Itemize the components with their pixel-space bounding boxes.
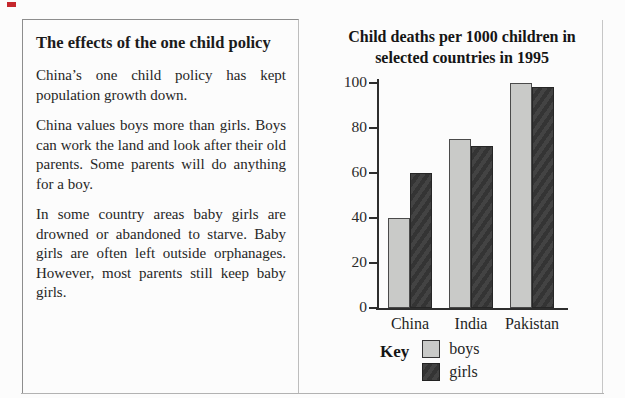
legend-entries: boys girls bbox=[422, 340, 479, 381]
y-tick bbox=[369, 307, 378, 309]
y-tick bbox=[369, 262, 378, 264]
bar-girls-pakistan bbox=[532, 87, 554, 308]
legend-swatch-girls bbox=[422, 363, 440, 381]
legend-swatch-boys bbox=[422, 340, 440, 358]
page: The effects of the one child policy Chin… bbox=[0, 0, 625, 398]
y-tick bbox=[369, 82, 378, 84]
y-tick-label: 0 bbox=[330, 298, 367, 316]
chart-legend: Key boys girls bbox=[380, 340, 480, 381]
y-tick bbox=[369, 127, 378, 129]
chart-title-line-2: selected countries in 1995 bbox=[312, 47, 612, 68]
y-tick-label: 20 bbox=[330, 253, 367, 271]
bar-girls-india bbox=[471, 146, 493, 308]
y-tick-label: 60 bbox=[330, 163, 367, 181]
article-paragraph-3: In some country areas baby girls are dro… bbox=[36, 205, 286, 303]
legend-label-girls: girls bbox=[449, 363, 477, 381]
article-paragraph-2: China values boys more than girls. Boys … bbox=[36, 116, 286, 194]
article-box: The effects of the one child policy Chin… bbox=[22, 19, 299, 393]
bar-boys-india bbox=[449, 139, 471, 308]
page-edge-bottom bbox=[21, 393, 604, 394]
plot-area: 020406080100ChinaIndiaPakistan bbox=[330, 73, 602, 348]
legend-entry-girls: girls bbox=[422, 363, 479, 381]
article-paragraph-1: China’s one child policy has kept popula… bbox=[36, 66, 286, 105]
red-corner-mark bbox=[7, 2, 16, 7]
x-axis-line bbox=[376, 308, 568, 310]
y-axis-line bbox=[377, 79, 379, 310]
y-tick-label: 80 bbox=[330, 118, 367, 136]
y-tick-label: 40 bbox=[330, 208, 367, 226]
bar-boys-china bbox=[388, 218, 410, 308]
page-edge-right bbox=[602, 20, 603, 393]
chart-title: Child deaths per 1000 children in select… bbox=[312, 26, 612, 68]
legend-entry-boys: boys bbox=[422, 340, 479, 358]
y-tick-label: 100 bbox=[330, 73, 367, 91]
y-tick bbox=[369, 172, 378, 174]
article-title: The effects of the one child policy bbox=[36, 32, 286, 54]
x-axis-label: Pakistan bbox=[490, 315, 574, 333]
chart-title-line-1: Child deaths per 1000 children in bbox=[312, 26, 612, 47]
bar-girls-china bbox=[410, 173, 432, 308]
y-tick bbox=[369, 217, 378, 219]
legend-label-boys: boys bbox=[449, 340, 479, 358]
bar-boys-pakistan bbox=[510, 83, 532, 308]
legend-title: Key bbox=[380, 340, 409, 362]
